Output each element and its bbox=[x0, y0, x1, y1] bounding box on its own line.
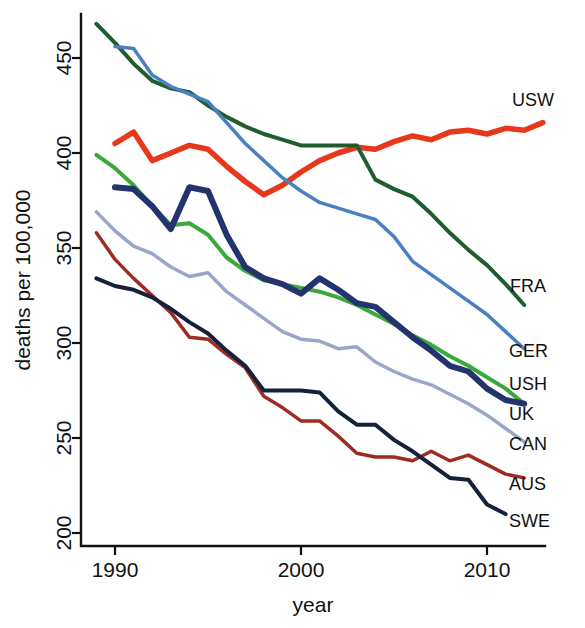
series-label-uk: UK bbox=[509, 404, 534, 424]
series-label-swe: SWE bbox=[509, 511, 550, 531]
y-tick-label: 250 bbox=[52, 420, 75, 455]
x-tick-label: 2010 bbox=[464, 558, 511, 581]
y-axis-title: deaths per 100,000 bbox=[11, 190, 34, 371]
x-tick-label: 1990 bbox=[92, 558, 139, 581]
series-label-ger: GER bbox=[509, 341, 548, 361]
line-chart-svg: 200250300350400450199020002010 USWFRAGER… bbox=[0, 0, 585, 628]
x-axis-title: year bbox=[293, 593, 334, 616]
series-line-usw bbox=[115, 123, 543, 195]
series-line-aus bbox=[96, 233, 524, 478]
x-tick-label: 2000 bbox=[278, 558, 325, 581]
series-label-ush: USH bbox=[509, 374, 547, 394]
y-tick-label: 450 bbox=[52, 40, 75, 75]
y-tick-label: 300 bbox=[52, 325, 75, 360]
series-label-fra: FRA bbox=[510, 276, 546, 296]
series-line-ger bbox=[115, 47, 524, 349]
chart-figure: 200250300350400450199020002010 USWFRAGER… bbox=[0, 0, 585, 628]
series-label-usw: USW bbox=[512, 90, 554, 110]
axis-tick-labels: 200250300350400450199020002010 bbox=[52, 40, 511, 581]
series-labels: USWFRAGERUSHUKCANAUSSWE bbox=[509, 90, 554, 531]
series-label-aus: AUS bbox=[509, 474, 546, 494]
series-line-swe bbox=[96, 278, 505, 514]
y-tick-label: 200 bbox=[52, 515, 75, 550]
y-tick-label: 400 bbox=[52, 135, 75, 170]
series-lines bbox=[96, 24, 542, 514]
series-label-can: CAN bbox=[509, 434, 547, 454]
y-tick-label: 350 bbox=[52, 230, 75, 265]
series-line-can bbox=[96, 212, 524, 442]
